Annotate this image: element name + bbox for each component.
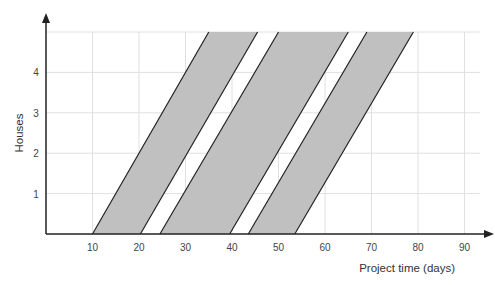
x-tick-label: 90 xyxy=(459,242,471,253)
y-tick-label: 3 xyxy=(33,108,39,119)
y-tick-label: 4 xyxy=(33,67,39,78)
x-tick-label: 20 xyxy=(133,242,145,253)
x-axis-arrow-icon xyxy=(484,230,494,238)
x-tick-labels: 102030405060708090 xyxy=(87,242,471,253)
x-tick-label: 30 xyxy=(180,242,192,253)
x-axis-label: Project time (days) xyxy=(359,262,455,274)
x-tick-label: 50 xyxy=(273,242,285,253)
activity-bands xyxy=(93,32,414,234)
y-tick-labels: 1234 xyxy=(33,67,39,199)
y-axis-label: Houses xyxy=(13,113,25,152)
y-tick-label: 1 xyxy=(33,189,39,200)
y-axis-arrow-icon xyxy=(42,13,50,23)
y-tick-label: 2 xyxy=(33,148,39,159)
x-tick-label: 60 xyxy=(319,242,331,253)
x-tick-label: 40 xyxy=(226,242,238,253)
line-of-balance-chart: 102030405060708090 1234 Project time (da… xyxy=(0,0,495,285)
x-tick-label: 70 xyxy=(366,242,378,253)
x-tick-label: 10 xyxy=(87,242,99,253)
x-tick-label: 80 xyxy=(412,242,424,253)
